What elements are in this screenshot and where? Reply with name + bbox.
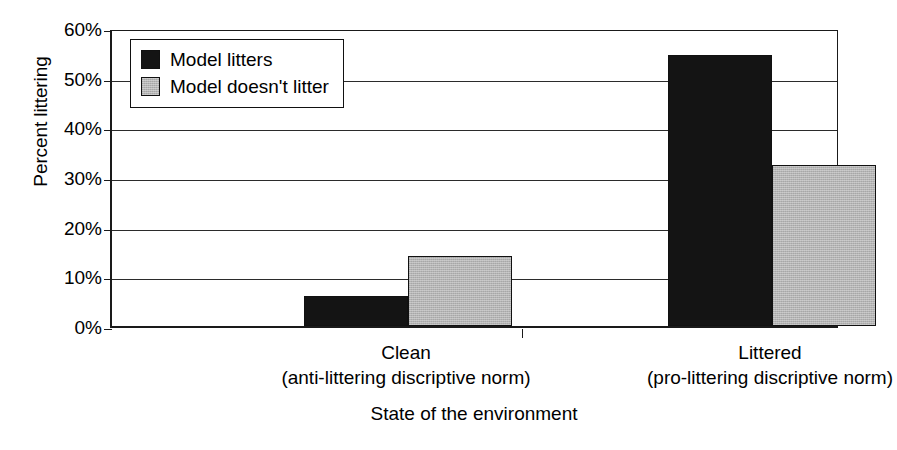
x-axis-tick-mark <box>522 329 523 338</box>
y-axis-tick-mark <box>104 81 112 82</box>
plot-area: Model littersModel doesn't litter <box>110 30 838 328</box>
category-name: Littered <box>570 340 897 365</box>
y-axis-tick-label: 50% <box>40 70 102 89</box>
category-name: Clean <box>206 340 606 365</box>
y-axis-tick-mark <box>104 180 112 181</box>
bar <box>772 165 876 326</box>
y-axis-tick-labels: 60%50%40%30%20%10%0% <box>32 0 102 450</box>
y-axis-tick-label: 40% <box>40 119 102 138</box>
y-axis-tick-mark <box>104 279 112 280</box>
x-axis-category-label: Clean(anti-littering discriptive norm) <box>206 340 606 390</box>
y-axis-tick-label: 0% <box>40 318 102 337</box>
y-axis-tick-mark <box>104 230 112 231</box>
category-sublabel: (pro-littering discriptive norm) <box>570 365 897 390</box>
legend-item-label: Model litters <box>170 50 272 69</box>
y-axis-tick-label: 30% <box>40 169 102 188</box>
category-sublabel: (anti-littering discriptive norm) <box>206 365 606 390</box>
x-axis-title: State of the environment <box>110 404 838 423</box>
bar <box>668 55 772 326</box>
y-axis-tick-label: 10% <box>40 268 102 287</box>
y-axis-tick-label: 20% <box>40 219 102 238</box>
y-axis-tick-mark <box>104 31 112 32</box>
y-axis-tick-label: 60% <box>40 20 102 39</box>
legend-item: Model doesn't litter <box>141 73 329 100</box>
bar <box>304 296 408 326</box>
bar <box>408 256 512 326</box>
x-axis-category-label: Littered(pro-littering discriptive norm) <box>570 340 897 390</box>
grey-swatch-icon <box>141 77 160 96</box>
legend: Model littersModel doesn't litter <box>130 39 344 108</box>
black-swatch-icon <box>141 50 160 69</box>
y-axis-tick-mark <box>104 329 112 330</box>
legend-item: Model litters <box>141 46 329 73</box>
legend-item-label: Model doesn't litter <box>170 77 329 96</box>
y-axis-tick-mark <box>104 130 112 131</box>
